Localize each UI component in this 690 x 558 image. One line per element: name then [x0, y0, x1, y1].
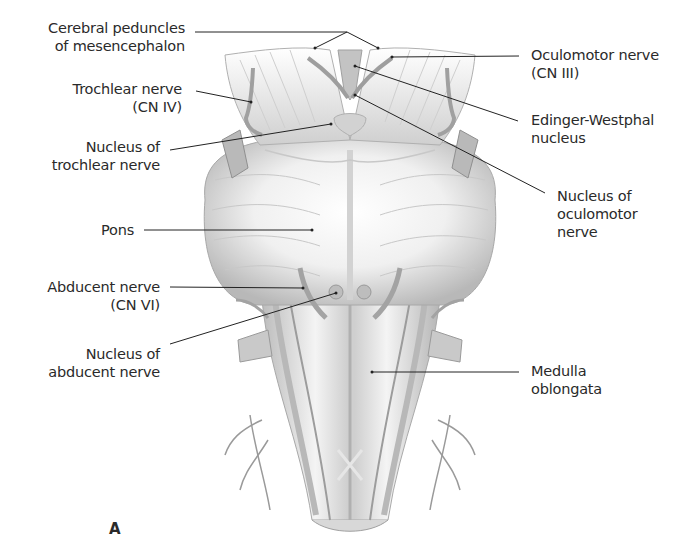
panel-letter: A: [109, 520, 121, 538]
label-oculomotor-nerve: Oculomotor nerve (CN III): [531, 46, 659, 82]
label-edinger-westphal: Edinger-Westphal nucleus: [531, 111, 654, 147]
label-cerebral-peduncles: Cerebral peduncles of mesencephalon: [48, 19, 185, 55]
label-nucleus-oculomotor: Nucleus of oculomotor nerve: [557, 187, 637, 241]
label-nucleus-trochlear: Nucleus of trochlear nerve: [52, 138, 160, 174]
label-abducent-nerve: Abducent nerve (CN VI): [47, 278, 160, 314]
medulla-shape: [225, 300, 475, 531]
label-trochlear-nerve: Trochlear nerve (CN IV): [73, 80, 182, 116]
label-nucleus-abducent: Nucleus of abducent nerve: [48, 345, 160, 381]
brainstem-diagram: Cerebral peduncles of mesencephalon Troc…: [0, 0, 690, 558]
pons-shape: [204, 130, 496, 318]
label-pons: Pons: [101, 221, 134, 239]
label-medulla-oblongata: Medulla oblongata: [531, 362, 602, 398]
